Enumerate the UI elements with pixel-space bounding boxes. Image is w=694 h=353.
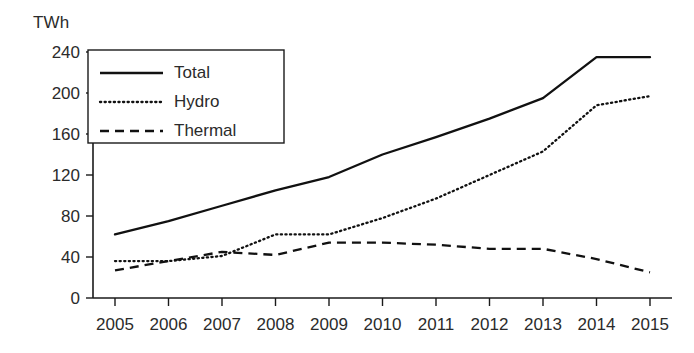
y-tick-label: 240 bbox=[52, 43, 80, 62]
y-tick-label: 0 bbox=[71, 289, 80, 308]
legend-label-thermal: Thermal bbox=[174, 121, 236, 140]
x-tick-label: 2008 bbox=[257, 315, 295, 334]
x-tick-label: 2013 bbox=[524, 315, 562, 334]
y-tick-label: 40 bbox=[61, 248, 80, 267]
x-tick-label: 2012 bbox=[471, 315, 509, 334]
series-line-thermal bbox=[115, 243, 650, 273]
x-tick-label: 2015 bbox=[631, 315, 669, 334]
y-tick-label: 200 bbox=[52, 84, 80, 103]
x-tick-label: 2014 bbox=[578, 315, 616, 334]
x-axis-tick-marks bbox=[115, 298, 650, 306]
line-chart-canvas: 04080120160200240 2005200620072008200920… bbox=[0, 0, 694, 353]
x-tick-label: 2006 bbox=[150, 315, 188, 334]
x-tick-label: 2007 bbox=[203, 315, 241, 334]
x-tick-label: 2005 bbox=[96, 315, 134, 334]
x-tick-label: 2011 bbox=[418, 315, 455, 334]
chart-figure: TWh 04080120160200240 200520062007200820… bbox=[0, 0, 694, 353]
x-tick-label: 2010 bbox=[364, 315, 402, 334]
legend-label-total: Total bbox=[174, 63, 210, 82]
chart-legend: TotalHydroThermal bbox=[88, 50, 284, 143]
x-axis-tick-labels: 2005200620072008200920102011201220132014… bbox=[96, 315, 669, 334]
x-tick-label: 2009 bbox=[310, 315, 348, 334]
y-tick-label: 80 bbox=[61, 207, 80, 226]
y-axis-tick-labels: 04080120160200240 bbox=[52, 43, 80, 308]
y-tick-label: 120 bbox=[52, 166, 80, 185]
y-tick-label: 160 bbox=[52, 125, 80, 144]
legend-label-hydro: Hydro bbox=[174, 92, 219, 111]
